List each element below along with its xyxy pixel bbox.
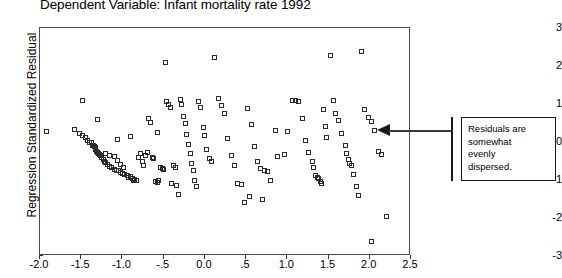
x-tick-mark [286,255,287,259]
scatter-point [303,138,308,143]
scatter-point [245,106,250,111]
scatter-point [349,163,354,168]
callout-leader-line [389,130,451,132]
x-tick-label: .5 [225,258,265,270]
y-tick-label: -3 [536,250,562,260]
x-tick-label: 2.0 [349,258,389,270]
scatter-point [321,107,326,112]
scatter-point [95,117,100,122]
x-tick-label: 1.0 [266,258,306,270]
chart-title: Dependent Variable: Infant mortality rat… [40,0,380,12]
scatter-point [265,169,270,174]
x-tick-label: -1.0 [101,258,141,270]
scatter-point [222,111,227,116]
scatter-point [333,111,338,116]
scatter-point [384,214,389,219]
scatter-point [306,150,311,155]
scatter-point [179,102,184,107]
x-tick-mark [410,255,411,259]
scatter-point [191,168,196,173]
scatter-point [155,130,160,135]
scatter-point [331,98,336,103]
x-tick-mark [39,255,40,259]
scatter-point [359,49,364,54]
scatter-point [148,120,153,125]
scatter-point [44,129,49,134]
annotation-line-3: evenly [468,148,555,161]
x-tick-mark [328,255,329,259]
scatter-point [174,183,179,188]
scatter-point [242,200,247,205]
scatter-point [310,159,315,164]
x-tick-mark [80,255,81,259]
scatter-point [161,167,166,172]
scatter-point [80,98,85,103]
scatter-point [229,153,234,158]
scatter-point [216,96,221,101]
scatter-point [188,151,193,156]
x-tick-label: -.5 [143,258,183,270]
scatter-point [296,99,301,104]
scatter-point [344,151,349,156]
scatter-point [351,172,356,177]
y-tick-label: -2 [536,212,562,222]
scatter-point [300,116,305,121]
scatter-point [204,147,209,152]
scatter-point [319,181,324,186]
scatter-point [379,152,384,157]
scatter-point [189,161,194,166]
scatter-point [249,122,254,127]
scatter-point [260,197,265,202]
scatter-point [168,105,173,110]
x-tick-label: -2.0 [19,258,59,270]
x-tick-label: 0.0 [184,258,224,270]
scatter-point [247,194,252,199]
scatter-point [252,144,257,149]
scatter-point [115,137,120,142]
scatter-point [183,121,188,126]
callout-handle-bar [451,117,453,181]
scatter-point [212,55,217,60]
scatterplot-figure: Dependent Variable: Infant mortality rat… [0,0,562,278]
x-tick-mark [245,255,246,259]
scatter-point [134,178,139,183]
scatter-point [186,142,191,147]
x-tick-mark [369,255,370,259]
scatter-point [328,53,333,58]
scatter-point [282,152,287,157]
scatter-point [151,156,156,161]
scatter-point [369,239,374,244]
plot-area [39,27,410,255]
scatter-point [225,136,230,141]
scatter-point [324,135,329,140]
annotation-line-1: Residuals are [468,123,555,136]
scatter-point [196,99,201,104]
scatter-point [194,184,199,189]
scatter-point [336,118,341,123]
scatter-point [239,182,244,187]
annotation-line-4: dispersed. [468,161,555,174]
scatter-point [202,133,207,138]
scatter-point [192,178,197,183]
scatter-point [311,165,316,170]
scatter-point [268,178,273,183]
scatter-point [273,128,278,133]
scatter-point [181,114,186,119]
scatter-point [343,143,348,148]
annotation-line-2: somewhat [468,136,555,149]
x-tick-mark [163,255,164,259]
scatter-point [184,132,189,137]
scatter-point [285,129,290,134]
y-tick-label: 1 [536,98,562,108]
scatter-point [275,154,280,159]
scatter-point [362,107,367,112]
scatter-point [356,193,361,198]
scatter-point [121,165,126,170]
scatter-point [219,103,224,108]
scatter-point [163,60,168,65]
scatter-point [255,159,260,164]
x-tick-label: 1.5 [308,258,348,270]
y-axis-title: Regression Standardized Residual [25,11,39,239]
scatter-point [201,125,206,130]
x-tick-mark [204,255,205,259]
